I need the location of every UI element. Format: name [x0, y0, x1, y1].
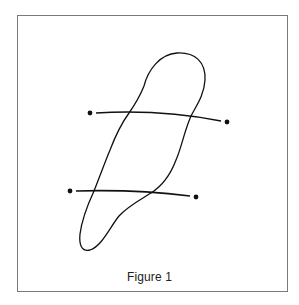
lower-line-left-dot — [68, 189, 73, 194]
upper-line-right-dot — [225, 120, 230, 125]
lower-line-right-dot — [194, 195, 199, 200]
figure-caption: Figure 1 — [0, 270, 299, 284]
upper-line — [96, 112, 221, 121]
upper-line-left-dot — [88, 111, 93, 116]
figure-diagram — [0, 0, 299, 305]
closed-curve — [80, 53, 205, 250]
